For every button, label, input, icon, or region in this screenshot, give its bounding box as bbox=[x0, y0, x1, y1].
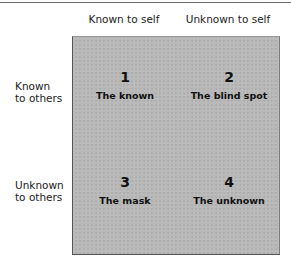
quadrant-the-known: 1 The known bbox=[73, 69, 177, 102]
row-header-line1: Unknown bbox=[15, 179, 64, 191]
quadrant-number: 4 bbox=[177, 174, 281, 190]
row-header-line2: to others bbox=[15, 191, 64, 203]
row-header-known-to-others: Known to others bbox=[15, 80, 62, 104]
row-header-unknown-to-others: Unknown to others bbox=[15, 179, 64, 203]
quadrant-the-unknown: 4 The unknown bbox=[177, 174, 281, 207]
johari-window-grid: 1 The known 2 The blind spot 3 The mask … bbox=[72, 36, 280, 255]
column-header-known-to-self: Known to self bbox=[72, 13, 176, 25]
column-header-unknown-to-self: Unknown to self bbox=[176, 13, 280, 25]
quadrant-label: The blind spot bbox=[177, 90, 281, 102]
quadrant-the-blind-spot: 2 The blind spot bbox=[177, 69, 281, 102]
row-header-line1: Known bbox=[15, 80, 62, 92]
quadrant-number: 1 bbox=[73, 69, 177, 85]
quadrant-number: 3 bbox=[73, 174, 177, 190]
quadrant-label: The unknown bbox=[177, 195, 281, 207]
quadrant-label: The mask bbox=[73, 195, 177, 207]
quadrant-the-mask: 3 The mask bbox=[73, 174, 177, 207]
quadrant-number: 2 bbox=[177, 69, 281, 85]
quadrant-label: The known bbox=[73, 90, 177, 102]
row-header-line2: to others bbox=[15, 92, 62, 104]
top-rule bbox=[0, 2, 291, 3]
